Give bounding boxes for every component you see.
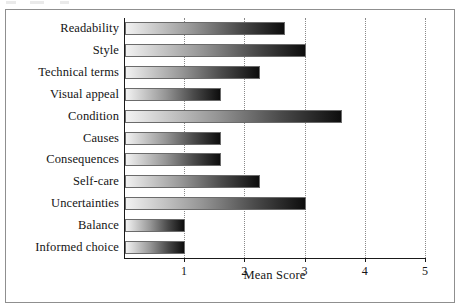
bar-row [125, 153, 221, 166]
category-axis-labels: ReadabilityStyleTechnical termsVisual ap… [0, 18, 119, 258]
bar-row [125, 241, 185, 254]
plot-area: 12345 [124, 18, 425, 258]
bar-row [125, 88, 221, 101]
bar-uncertainties [125, 197, 306, 210]
tickmark-3 [305, 258, 306, 262]
bar-readability [125, 22, 285, 35]
bar-visual-appeal [125, 88, 221, 101]
category-label-visual-appeal: Visual appeal [4, 87, 119, 102]
bar-self-care [125, 175, 260, 188]
gridline-4 [365, 18, 366, 258]
category-label-consequences: Consequences [4, 152, 119, 167]
x-axis-line [124, 258, 425, 259]
bar-row [125, 44, 306, 57]
tickmark-5 [425, 258, 426, 262]
category-label-readability: Readability [4, 21, 119, 36]
category-label-balance: Balance [4, 218, 119, 233]
category-label-technical-terms: Technical terms [4, 65, 119, 80]
category-label-style: Style [4, 43, 119, 58]
category-label-self-care: Self-care [4, 174, 119, 189]
figure-canvas: ReadabilityStyleTechnical termsVisual ap… [0, 0, 461, 308]
gridline-5 [425, 18, 426, 258]
bar-informed-choice [125, 241, 185, 254]
x-axis-title: Mean Score [124, 268, 425, 283]
bar-row [125, 219, 185, 232]
bar-row [125, 197, 306, 210]
scan-artifact [30, 1, 44, 4]
tickmark-4 [365, 258, 366, 262]
category-label-uncertainties: Uncertainties [4, 196, 119, 211]
tickmark-1 [184, 258, 185, 262]
bar-balance [125, 219, 185, 232]
bar-consequences [125, 153, 221, 166]
scan-artifact [6, 1, 16, 4]
scan-artifact [60, 1, 69, 4]
category-label-condition: Condition [4, 109, 119, 124]
tickmark-2 [244, 258, 245, 262]
bar-row [125, 110, 342, 123]
bar-row [125, 132, 221, 145]
bar-condition [125, 110, 342, 123]
bar-row [125, 22, 285, 35]
bar-style [125, 44, 306, 57]
bar-technical-terms [125, 66, 260, 79]
bar-row [125, 175, 260, 188]
category-label-informed-choice: Informed choice [4, 240, 119, 255]
bar-causes [125, 132, 221, 145]
category-label-causes: Causes [4, 131, 119, 146]
bar-row [125, 66, 260, 79]
